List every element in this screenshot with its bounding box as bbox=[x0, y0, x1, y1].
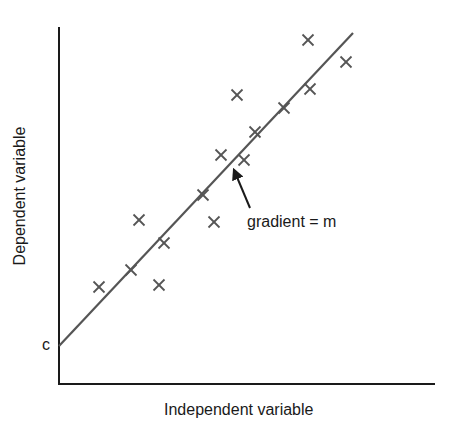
gradient-arrow bbox=[234, 170, 250, 208]
data-point-x-marker bbox=[279, 103, 290, 114]
data-point-x-marker bbox=[216, 150, 227, 161]
data-point-x-marker bbox=[159, 238, 170, 249]
data-point-x-marker bbox=[94, 282, 105, 293]
x-axis-label: Independent variable bbox=[164, 401, 313, 419]
data-point-x-marker bbox=[305, 84, 316, 95]
axes bbox=[58, 27, 435, 385]
data-point-x-marker bbox=[134, 215, 145, 226]
scatter-regression-diagram bbox=[0, 0, 460, 439]
gradient-label: gradient = m bbox=[247, 213, 336, 231]
data-point-x-marker bbox=[232, 90, 243, 101]
best-fit-line bbox=[59, 33, 353, 346]
data-point-x-marker bbox=[341, 57, 352, 68]
intercept-label: c bbox=[42, 336, 50, 354]
y-axis-label: Dependent variable bbox=[11, 127, 29, 266]
data-point-x-marker bbox=[303, 35, 314, 46]
data-points bbox=[94, 35, 352, 293]
data-point-x-marker bbox=[126, 265, 137, 276]
data-point-x-marker bbox=[239, 155, 250, 166]
data-point-x-marker bbox=[154, 280, 165, 291]
data-point-x-marker bbox=[209, 217, 220, 228]
